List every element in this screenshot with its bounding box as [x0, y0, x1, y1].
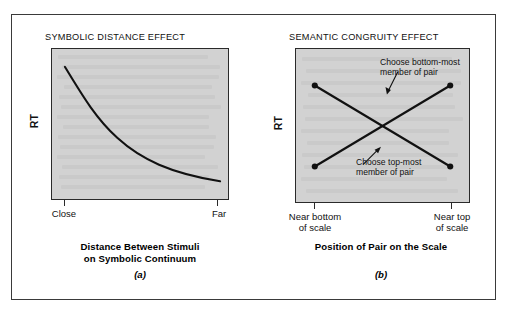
panel-b-point-bottomright [447, 163, 453, 169]
panel-b-xtick-right-line1: Near top [416, 211, 488, 222]
panel-a-sub-label: (a) [28, 269, 252, 280]
panel-a-plot-area [51, 48, 229, 200]
panel-b-point-topright [447, 82, 453, 88]
panel-a-decay-curve [65, 67, 220, 181]
panel-b-plot-area: Choose bottom-most member of pair Choose… [295, 48, 470, 203]
panel-b-xtick-right-line2: of scale [416, 222, 488, 233]
panel-b-tick-near-top [451, 203, 452, 209]
panel-b-point-bottomleft [312, 163, 318, 169]
panel-b-xtick-label-right: Near top of scale [416, 211, 488, 233]
panel-b-annotation-bottom-line1: Choose top-most [356, 157, 421, 167]
panel-a-y-axis-label: RT [28, 109, 40, 133]
panel-b-point-topleft [312, 82, 318, 88]
panel-a-symbolic-distance: SYMBOLIC DISTANCE EFFECT RT [12, 15, 264, 299]
panel-b-annotation-top-line2: member of pair [380, 67, 460, 77]
panel-b-semantic-congruity: SEMANTIC CONGRUITY EFFECT RT [264, 15, 497, 299]
panel-b-y-axis-label: RT [272, 111, 284, 135]
panel-b-xtick-left-line2: of scale [278, 222, 352, 233]
panel-a-caption-line1: Distance Between Stimuli [28, 241, 252, 253]
panel-a-tick-close [64, 200, 65, 206]
panel-a-xtick-label-close: Close [40, 208, 88, 219]
panel-b-annotation-top: Choose bottom-most member of pair [380, 57, 460, 77]
panel-b-xtick-label-left: Near bottom of scale [278, 211, 352, 233]
panel-a-title: SYMBOLIC DISTANCE EFFECT [45, 32, 185, 42]
panel-a-tick-far [217, 200, 218, 206]
panel-b-caption: Position of Pair on the Scale [272, 241, 490, 253]
panel-b-sub-label: (b) [272, 269, 490, 280]
panel-b-annotation-bottom-line2: member of pair [356, 167, 421, 177]
panel-a-curve-svg [52, 49, 228, 199]
panel-b-tick-near-bottom [314, 203, 315, 209]
panel-b-annotation-bottom: Choose top-most member of pair [356, 157, 421, 177]
panel-b-title: SEMANTIC CONGRUITY EFFECT [289, 32, 439, 42]
panel-a-xtick-label-far: Far [195, 208, 243, 219]
panel-a-caption-line2: on Symbolic Continuum [28, 253, 252, 265]
panel-b-annotation-top-line1: Choose bottom-most [380, 57, 460, 67]
panel-b-xtick-left-line1: Near bottom [278, 211, 352, 222]
figure-container: SYMBOLIC DISTANCE EFFECT RT [0, 0, 507, 313]
figure-outer-frame: SYMBOLIC DISTANCE EFFECT RT [11, 14, 496, 300]
